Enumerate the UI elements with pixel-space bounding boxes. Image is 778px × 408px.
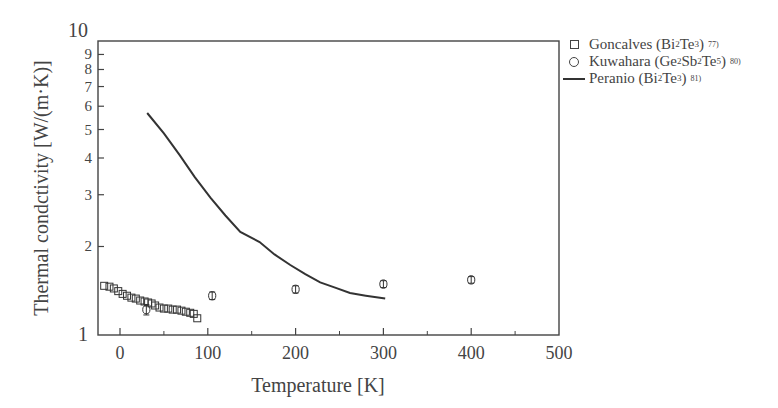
plot-axes: 010020030040050012345678910 xyxy=(68,19,573,363)
y-tick-label: 7 xyxy=(85,79,93,95)
y-tick-label: 4 xyxy=(85,150,93,166)
goncalves-square-marker xyxy=(119,290,126,297)
goncalves-square-marker xyxy=(115,288,122,295)
legend-item-peranio: Peranio (Bi2Te3)81) xyxy=(563,70,741,87)
y-tick-label: 9 xyxy=(85,46,93,62)
x-tick-label: 300 xyxy=(370,343,397,363)
y-tick-label: 6 xyxy=(85,98,93,114)
x-tick-label: 500 xyxy=(546,343,573,363)
goncalves-square-marker xyxy=(124,292,131,299)
legend-item-goncalves: Goncalves (Bi2Te3)77) xyxy=(563,36,741,53)
y-tick-label: 10 xyxy=(68,19,88,41)
y-tick-label: 3 xyxy=(85,187,93,203)
y-tick-label: 1 xyxy=(78,323,88,345)
plot-frame xyxy=(98,41,559,335)
plot-series xyxy=(101,113,475,322)
goncalves-square-marker xyxy=(110,285,117,292)
line-marker-icon xyxy=(563,78,585,80)
y-tick-label: 5 xyxy=(85,122,93,138)
square-marker-icon xyxy=(563,40,585,49)
x-tick-label: 100 xyxy=(194,343,221,363)
y-tick-label: 2 xyxy=(85,238,93,254)
peranio-line xyxy=(147,113,385,299)
circle-marker-icon xyxy=(563,57,585,67)
chart-legend: Goncalves (Bi2Te3)77) Kuwahara (Ge2Sb2Te… xyxy=(563,36,741,87)
y-tick-label: 8 xyxy=(85,61,93,77)
legend-item-kuwahara: Kuwahara (Ge2Sb2Te5)80) xyxy=(563,53,741,70)
x-tick-label: 400 xyxy=(458,343,485,363)
x-axis-label: Temperature [K] xyxy=(251,374,385,397)
x-tick-label: 200 xyxy=(282,343,309,363)
x-tick-label: 0 xyxy=(116,343,125,363)
y-axis-label: Thermal condctivity [W/(m·K)] xyxy=(30,60,53,315)
